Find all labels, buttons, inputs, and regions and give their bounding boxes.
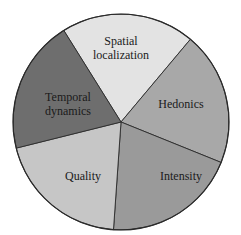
slice-label: Intensity xyxy=(160,169,202,183)
slice-label: Hedonics xyxy=(158,97,204,111)
pie-chart: SpatiallocalizationHedonicsIntensityQual… xyxy=(0,0,241,235)
slice-label: Temporaldynamics xyxy=(45,90,92,118)
slice-label: Quality xyxy=(65,169,101,183)
